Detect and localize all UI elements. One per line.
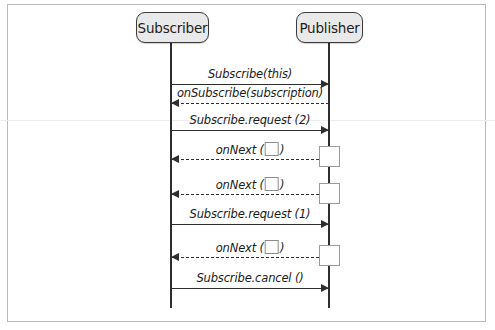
message-label-m4: onNext () xyxy=(216,142,285,157)
message-arrow-line xyxy=(171,288,329,289)
participant-label: Publisher xyxy=(299,20,359,36)
message-label-prefix: onNext ( xyxy=(216,241,264,255)
payload-placeholder-icon xyxy=(265,240,279,254)
message-label-suffix: ) xyxy=(280,178,284,192)
message-label-prefix: onNext ( xyxy=(216,143,264,157)
participant-subscriber[interactable]: Subscriber xyxy=(136,12,209,43)
message-label-m3: Subscribe.request (2) xyxy=(190,113,311,127)
lifeline-subscriber xyxy=(170,43,172,308)
sequence-diagram-canvas: Subscribe(this)onSubscribe(subscription)… xyxy=(0,0,495,330)
message-arrow-line xyxy=(171,194,329,195)
message-arrow-line xyxy=(171,224,329,225)
payload-placeholder-icon xyxy=(265,177,279,191)
message-arrow-line xyxy=(171,84,329,85)
message-label-m5: onNext () xyxy=(216,177,285,192)
arrow-head-left-icon xyxy=(171,155,179,163)
message-arrow-line xyxy=(171,257,329,258)
message-label-m6: Subscribe.request (1) xyxy=(190,207,311,221)
arrow-head-left-icon xyxy=(171,253,179,261)
message-label-prefix: onNext ( xyxy=(216,178,264,192)
participant-publisher[interactable]: Publisher xyxy=(296,12,363,43)
arrow-head-right-icon xyxy=(321,284,329,292)
message-label-suffix: ) xyxy=(280,241,284,255)
arrow-head-right-icon xyxy=(321,126,329,134)
activation-box xyxy=(319,183,340,204)
arrow-head-left-icon xyxy=(171,190,179,198)
message-arrow-line xyxy=(171,159,329,160)
message-label-suffix: ) xyxy=(280,143,284,157)
message-arrow-line xyxy=(171,103,329,104)
activation-box xyxy=(319,245,340,266)
arrow-head-right-icon xyxy=(321,220,329,228)
message-label-m7: onNext () xyxy=(216,240,285,255)
message-label-m2: onSubscribe(subscription) xyxy=(177,86,323,100)
arrow-head-left-icon xyxy=(171,99,179,107)
payload-placeholder-icon xyxy=(265,142,279,156)
message-label-m8: Subscribe.cancel () xyxy=(196,271,303,285)
message-arrow-line xyxy=(171,130,329,131)
participant-label: Subscriber xyxy=(138,20,208,36)
message-label-m1: Subscribe(this) xyxy=(208,67,292,81)
activation-box xyxy=(319,146,340,167)
